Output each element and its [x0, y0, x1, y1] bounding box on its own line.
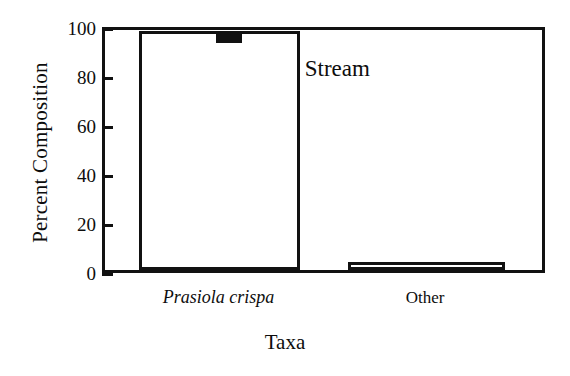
- y-tick-mark-20: [102, 224, 113, 227]
- y-tick-label-60: 60: [50, 117, 96, 136]
- chart-figure: Percent Composition 0 20 40 60 80 100 Ca…: [0, 0, 570, 376]
- plot-area: Canada Stream: [102, 27, 545, 273]
- y-tick-mark-40: [102, 175, 113, 178]
- bar-other: [348, 262, 505, 270]
- error-bar-prasiola-crispa: [216, 34, 242, 43]
- x-axis-title: Taxa: [0, 330, 570, 355]
- y-axis-title: Percent Composition: [28, 28, 53, 278]
- y-tick-label-20: 20: [50, 215, 96, 234]
- category-label-prasiola-crispa: Prasiola crispa: [136, 287, 301, 308]
- y-tick-mark-60: [102, 126, 113, 129]
- y-tick-label-0: 0: [50, 264, 96, 283]
- y-tick-mark-100: [102, 28, 113, 31]
- y-tick-mark-0: [102, 273, 113, 276]
- y-tick-label-40: 40: [50, 166, 96, 185]
- y-tick-label-80: 80: [50, 68, 96, 87]
- y-tick-mark-80: [102, 77, 113, 80]
- bar-prasiola-crispa: [139, 31, 300, 270]
- y-tick-label-100: 100: [50, 19, 96, 38]
- category-label-other: Other: [345, 288, 505, 308]
